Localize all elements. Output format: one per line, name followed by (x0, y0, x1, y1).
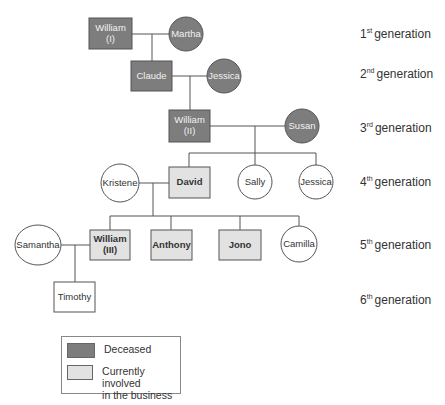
person-node-jono: Jono (219, 230, 261, 260)
person-name: William (93, 233, 126, 244)
person-name: William (95, 22, 126, 33)
person-name: Anthony (152, 239, 191, 250)
person-name: Jessica (208, 70, 240, 81)
person-name: Sally (245, 176, 266, 187)
person-name: (I) (106, 33, 115, 44)
person-name: (III) (103, 244, 117, 255)
person-name: Susan (289, 120, 316, 131)
person-node-susan: Susan (285, 109, 319, 143)
generation-label-5: 5thgeneration (360, 238, 431, 252)
generation-label-3: 3rdgeneration (360, 121, 432, 135)
person-name: Camilla (283, 238, 315, 249)
legend-label-involved: Currently involved in the business (102, 365, 180, 401)
generation-label-2: 2ndgeneration (360, 67, 433, 81)
person-node-kristene: Kristene (101, 164, 139, 202)
person-name: Claude (136, 70, 166, 81)
legend-label-line: in the business (102, 389, 180, 401)
legend-swatch-deceased (67, 343, 95, 358)
generation-label-4: 4thgeneration (360, 175, 431, 189)
generation-label-6: 6thgeneration (360, 293, 431, 307)
person-node-samantha: Samantha (15, 225, 61, 265)
person-name: Samantha (16, 239, 60, 250)
legend: Deceased Currently involved in the busin… (61, 336, 181, 394)
person-node-david: David (169, 167, 210, 198)
person-name: William (174, 114, 205, 125)
person-node-jessica2: Jessica (207, 59, 241, 93)
person-node-william3: William(III) (90, 230, 130, 260)
person-name: David (177, 176, 203, 187)
person-name: Jono (229, 239, 252, 250)
legend-label-line: Currently involved (102, 365, 180, 389)
person-name: Kristene (103, 177, 138, 188)
legend-item-deceased: Deceased (67, 343, 151, 358)
person-node-martha: Martha (169, 17, 203, 51)
person-node-sally: Sally (238, 165, 272, 199)
person-node-camilla: Camilla (281, 226, 317, 262)
person-name: Jessica (300, 176, 332, 187)
person-name: Martha (171, 28, 201, 39)
person-name: Timothy (58, 291, 92, 302)
legend-label-deceased: Deceased (104, 343, 151, 355)
person-node-timothy: Timothy (54, 282, 95, 312)
person-node-william1: William(I) (89, 18, 132, 49)
person-node-anthony: Anthony (151, 230, 192, 260)
generation-label-1: 1stgeneration (360, 27, 431, 41)
person-node-william2: William(II) (169, 110, 210, 142)
legend-swatch-involved (67, 365, 93, 380)
person-node-claude: Claude (131, 61, 172, 91)
person-node-jessica4: Jessica (299, 165, 333, 199)
person-name: (II) (184, 125, 196, 136)
legend-item-involved: Currently involved in the business (67, 365, 180, 401)
